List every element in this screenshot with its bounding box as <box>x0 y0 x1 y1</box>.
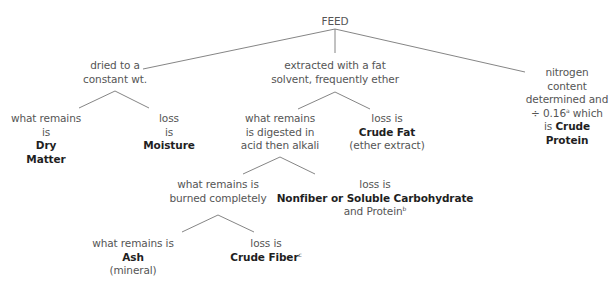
node-nonfiber: loss is Nonfiber or Soluble Carbohydrate… <box>277 178 474 219</box>
crudefiber-line1: loss is <box>230 237 301 251</box>
moisture-bold1: Moisture <box>143 139 195 151</box>
nonfiber-line1: loss is <box>277 178 474 192</box>
node-feed: FEED <box>322 15 349 29</box>
drymatter-line1: what remains <box>11 112 81 126</box>
edge-digested-burned <box>243 157 280 174</box>
drymatter-bold1: Dry <box>36 139 56 151</box>
nonfiber-line2-pre: and Protein <box>344 205 403 217</box>
digested-line2: is digested in <box>241 126 319 140</box>
drymatter-bold2: Matter <box>26 153 65 165</box>
ash-bold1: Ash <box>122 251 144 263</box>
edge-digested-nonfiber <box>280 157 315 174</box>
edge-extracted-digested <box>298 92 335 109</box>
digested-line3: acid then alkali <box>241 139 319 153</box>
crude-protein-bold2: Protein <box>546 134 589 146</box>
moisture-line2: is <box>143 126 195 140</box>
nitrogen-line5: is Crude <box>526 120 608 134</box>
dried-line2: constant wt. <box>83 73 147 87</box>
nitrogen-line6: Protein <box>526 134 608 148</box>
nitrogen-line3: determined and <box>526 93 608 107</box>
ash-line2: (mineral) <box>92 264 174 278</box>
ash-line1: what remains is <box>92 237 174 251</box>
footnote-b: b <box>403 205 407 212</box>
crudefat-line2: (ether extract) <box>349 139 424 153</box>
nitrogen-line4: ÷ 0.16a which <box>526 107 608 121</box>
nitrogen-line5-pre: is <box>544 120 555 132</box>
node-extracted: extracted with a fat solvent, frequently… <box>271 59 399 86</box>
node-moisture: loss is Moisture <box>143 112 195 153</box>
node-burned: what remains is burned completely <box>169 178 266 205</box>
feed-label: FEED <box>322 15 349 27</box>
nitrogen-line4-pre: ÷ 0.16 <box>531 107 566 119</box>
moisture-line1: loss <box>143 112 195 126</box>
node-dry-matter: what remains is Dry Matter <box>11 112 81 166</box>
crudefiber-bold1: Crude Fiber <box>230 251 298 263</box>
node-crude-fat: loss is Crude Fat (ether extract) <box>349 112 424 153</box>
crudefat-line1: loss is <box>349 112 424 126</box>
node-nitrogen: nitrogen content determined and ÷ 0.16a … <box>526 66 608 147</box>
crude-protein-bold1: Crude <box>555 120 590 132</box>
edge-burned-ash <box>182 215 218 232</box>
nonfiber-bold1: Nonfiber or Soluble Carbohydrate <box>277 192 474 204</box>
edge-burned-crudefiber <box>218 215 254 232</box>
drymatter-line2: is <box>11 126 81 140</box>
burned-line2: burned completely <box>169 192 266 206</box>
digested-line1: what remains <box>241 112 319 126</box>
footnote-c: c <box>298 250 301 257</box>
crudefat-bold1: Crude Fat <box>359 126 415 138</box>
burned-line1: what remains is <box>169 178 266 192</box>
node-digested: what remains is digested in acid then al… <box>241 112 319 153</box>
dried-line1: dried to a <box>83 59 147 73</box>
node-crude-fiber: loss is Crude Fiberc <box>230 237 301 264</box>
nitrogen-line4-post: which <box>570 107 603 119</box>
nitrogen-line1: nitrogen <box>526 66 608 80</box>
edge-dried-drymatter <box>79 91 115 108</box>
nitrogen-line2: content <box>526 80 608 94</box>
node-ash: what remains is Ash (mineral) <box>92 237 174 278</box>
node-dried: dried to a constant wt. <box>83 59 147 86</box>
extracted-line1: extracted with a fat <box>271 59 399 73</box>
edge-extracted-crudefat <box>335 92 370 109</box>
nonfiber-line2: and Proteinb <box>277 205 474 219</box>
edge-dried-moisture <box>115 91 149 108</box>
extracted-line2: solvent, frequently ether <box>271 73 399 87</box>
